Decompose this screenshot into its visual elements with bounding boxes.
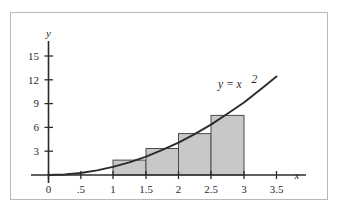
curve-label: y = x 2 xyxy=(217,73,258,92)
x-tick-label: 3 xyxy=(241,183,247,195)
curve-label-exponent: 2 xyxy=(252,73,258,85)
y-tick-label: 6 xyxy=(34,121,40,133)
y-tick-labels: 3 6 9 12 15 xyxy=(28,50,40,157)
figure-frame: 0 .5 1 1.5 2 2.5 3 3.5 3 6 9 12 15 x y y… xyxy=(10,12,328,200)
riemann-rectangles xyxy=(113,115,244,175)
x-tick-label: 3.5 xyxy=(270,183,284,195)
x-tick-label: .5 xyxy=(77,183,86,195)
y-tick-label: 15 xyxy=(28,50,40,62)
y-axis-label: y xyxy=(45,27,51,39)
table-row xyxy=(211,115,244,175)
y-tick-label: 9 xyxy=(34,97,40,109)
x-axis-label: x xyxy=(294,169,300,181)
x-tick-label: 1 xyxy=(110,183,116,195)
riemann-sum-plot: 0 .5 1 1.5 2 2.5 3 3.5 3 6 9 12 15 x y y… xyxy=(11,13,327,199)
table-row xyxy=(146,149,179,176)
x-tick-label: 1.5 xyxy=(139,183,153,195)
x-tick-label: 2.5 xyxy=(204,183,218,195)
x-tick-labels: 0 .5 1 1.5 2 2.5 3 3.5 xyxy=(46,183,284,195)
x-tick-label: 0 xyxy=(46,183,52,195)
y-tick-label: 12 xyxy=(28,74,39,86)
x-tick-label: 2 xyxy=(176,183,182,195)
curve-label-text: y = x xyxy=(217,78,243,91)
y-tick-label: 3 xyxy=(34,145,40,157)
